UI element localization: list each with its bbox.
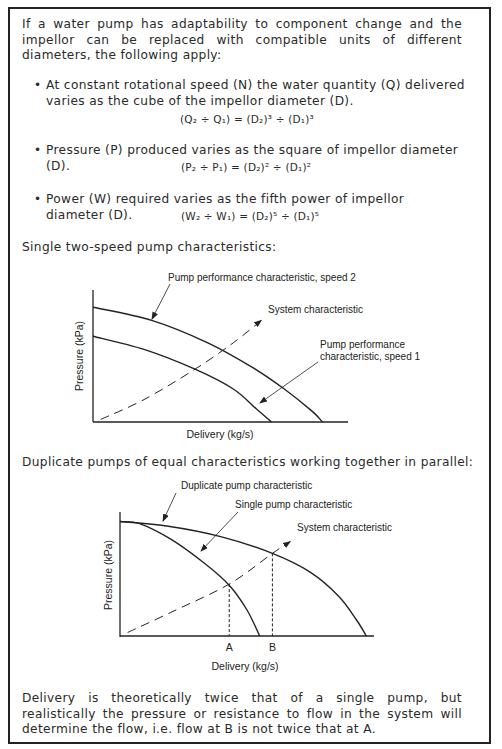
charts-canvas: Delivery (kg/s) Pressure (kPa) Pump perf…	[0, 0, 502, 749]
series-system-characteristic	[128, 542, 291, 633]
series-pump-performance-characteristic-speed-2	[93, 307, 323, 422]
annotation-single: Single pump characteristic	[235, 499, 352, 510]
x-tick-label-b: B	[269, 641, 276, 653]
annotation-speed-2: Pump performance characteristic, speed 2	[168, 272, 356, 283]
annotation-arrow-single	[201, 512, 238, 551]
annotation-system: System characteristic	[297, 522, 392, 533]
annotation-arrow-speed-1	[260, 362, 318, 403]
annotation-speed-1-line2: characteristic, speed 1	[320, 351, 420, 362]
series-single-pump-characteristic	[120, 522, 260, 637]
annotation-speed-1-line1: Pump performance	[320, 339, 405, 350]
y-axis-label: Pressure (kPa)	[102, 540, 114, 610]
x-tick-label-a: A	[226, 641, 233, 653]
series-pump-performance-characteristic-speed-1	[93, 336, 272, 422]
x-axis-label: Delivery (kg/s)	[186, 428, 253, 440]
annotation-system: System characteristic	[268, 304, 363, 315]
conclusion-paragraph: Delivery is theoretically twice that of …	[22, 691, 462, 738]
annotation-arrow-duplicate	[163, 493, 176, 521]
series-system-characteristic	[101, 320, 262, 419]
chart-duplicate-pumps: AB Delivery (kg/s) Pressure (kPa) Duplic…	[102, 480, 392, 672]
annotation-arrow-speed-2	[152, 284, 170, 319]
annotation-duplicate: Duplicate pump characteristic	[181, 480, 312, 491]
x-axis-label: Delivery (kg/s)	[211, 660, 278, 672]
chart-single-two-speed: Delivery (kg/s) Pressure (kPa) Pump perf…	[73, 272, 420, 440]
y-axis-label: Pressure (kPa)	[73, 321, 85, 391]
